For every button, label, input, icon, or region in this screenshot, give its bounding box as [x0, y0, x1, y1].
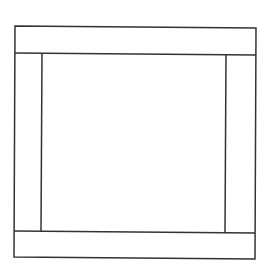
left-panel-divider [41, 53, 42, 231]
frame-diagram [0, 0, 259, 267]
right-panel-divider [225, 55, 226, 233]
bottom-band-divider [14, 231, 255, 233]
top-band-divider [15, 53, 256, 55]
outer-frame [14, 26, 256, 259]
